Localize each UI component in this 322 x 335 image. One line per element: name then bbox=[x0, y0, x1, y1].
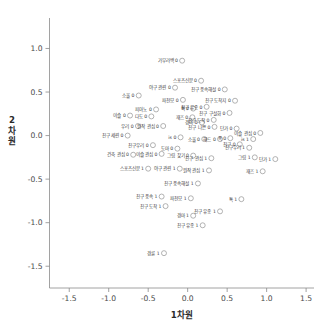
data-point bbox=[159, 194, 164, 199]
data-point bbox=[204, 104, 209, 109]
data-point-label: is 1 bbox=[241, 137, 249, 142]
data-point bbox=[146, 166, 151, 171]
data-point-label: 다도 0 bbox=[135, 113, 147, 120]
data-point-label: 야구 관련 0 bbox=[149, 84, 171, 91]
data-point bbox=[222, 87, 227, 92]
y-tick-label: -1.5 bbox=[28, 262, 43, 271]
data-point bbox=[128, 113, 133, 118]
data-point-label: 소울 0 bbox=[122, 93, 134, 99]
data-point-label: 친구 세련 0 bbox=[102, 132, 124, 139]
data-point-label: 친구 구설화 0 bbox=[199, 110, 225, 117]
data-point-label: 친구 나쁜 0 bbox=[188, 124, 210, 131]
data-point-label: 피아노 0 bbox=[135, 106, 151, 113]
data-point-label: 이슬 0 bbox=[113, 112, 125, 119]
data-point bbox=[252, 155, 257, 160]
data-point bbox=[258, 130, 263, 135]
data-point-label: 친구 풍속해설 0 bbox=[191, 86, 221, 93]
data-point-label: 단가 0 bbox=[220, 125, 232, 132]
data-point-label: 친구 도착지 0 bbox=[205, 97, 231, 104]
data-point bbox=[136, 93, 141, 98]
data-point bbox=[159, 151, 164, 156]
data-point-label: 파천모 0 bbox=[162, 97, 178, 104]
data-point bbox=[212, 124, 217, 129]
data-point-label: 단가 1 bbox=[259, 156, 271, 163]
x-tick-label: -1.0 bbox=[101, 294, 116, 303]
data-point bbox=[178, 135, 183, 140]
data-point bbox=[260, 169, 265, 174]
point-labels-group: 가부라백 0스포츠신문 0야구 관련 0친구 풍속해설 0소울 0파천모 0친구… bbox=[102, 57, 272, 255]
data-point bbox=[175, 146, 180, 151]
data-point bbox=[150, 143, 155, 148]
x-tick-label: 0.5 bbox=[221, 294, 233, 303]
data-point-label: 톡 0 bbox=[181, 106, 189, 112]
data-point bbox=[209, 156, 214, 161]
y-axis-title-char: 2 bbox=[9, 115, 15, 125]
data-point bbox=[125, 133, 130, 138]
data-point-label: 야구 관련 1 bbox=[154, 165, 176, 172]
data-point-label: 건축 관심 0 bbox=[107, 151, 129, 158]
data-point bbox=[163, 204, 168, 209]
data-point-label: 친구 도착 1 bbox=[140, 203, 162, 210]
y-axis-title-char: 차 bbox=[8, 125, 16, 136]
data-point-label: 친구 유종 1 bbox=[194, 208, 216, 215]
data-point bbox=[273, 157, 278, 162]
data-point bbox=[161, 124, 166, 129]
data-point-label: 도마 0 bbox=[161, 145, 173, 152]
data-point-label: 그림 1 bbox=[238, 154, 250, 160]
data-point bbox=[180, 58, 185, 63]
x-tick-label: 1.5 bbox=[300, 294, 312, 303]
data-point-label: 경륜 1 bbox=[147, 250, 159, 256]
data-point-label: 친구우리 0 bbox=[128, 142, 148, 149]
data-point-label: 친구 풍속 1 bbox=[136, 193, 158, 200]
y-tick-label: 0.0 bbox=[30, 131, 42, 140]
y-tick-label: -1.0 bbox=[28, 218, 43, 227]
data-point-label: 재즈 1 bbox=[246, 168, 258, 175]
data-point bbox=[199, 78, 204, 83]
data-point-label: 친구우리 1 bbox=[225, 144, 245, 151]
data-point-label: 원작 관심 1 bbox=[183, 167, 205, 174]
data-point bbox=[200, 223, 205, 228]
data-point bbox=[218, 209, 223, 214]
x-tick-label: 0.0 bbox=[182, 294, 194, 303]
plot-canvas: -1.5-1.0-0.50.00.51.01.51.00.50.0-0.5-1.… bbox=[0, 0, 322, 335]
data-point-label: 가부라백 0 bbox=[158, 57, 178, 64]
data-point bbox=[180, 97, 185, 102]
data-point-label: 친구 관심 1 bbox=[185, 155, 207, 162]
y-axis-title-char: 원 bbox=[8, 135, 16, 146]
data-point-label: 톡 1 bbox=[229, 197, 237, 203]
data-point-label: 소울 0 bbox=[188, 137, 200, 143]
data-point-label: 친구 풍속해설 1 bbox=[164, 180, 194, 187]
data-point bbox=[161, 251, 166, 256]
data-point-label: 파천모 1 bbox=[170, 195, 186, 202]
y-tick-label: -0.5 bbox=[28, 175, 43, 184]
data-point-label: 이슬 관심 0 bbox=[136, 151, 158, 158]
data-point bbox=[247, 145, 252, 150]
data-point bbox=[239, 197, 244, 202]
data-point bbox=[188, 196, 193, 201]
scatter-plot-figure: -1.5-1.0-0.50.00.51.01.51.00.50.0-0.5-1.… bbox=[0, 0, 322, 335]
data-point bbox=[233, 98, 238, 103]
data-point bbox=[251, 137, 256, 142]
data-point-label: is 0 bbox=[168, 135, 176, 140]
data-point-label: 원작 관심 0 bbox=[137, 123, 159, 130]
data-point-label: 우리 0 bbox=[121, 123, 133, 130]
data-point-label: 스포츠신문 1 bbox=[120, 165, 144, 171]
data-point bbox=[228, 136, 233, 141]
data-point-label: 친구 유종 1 bbox=[177, 222, 199, 229]
data-point-label: 해드 0 bbox=[203, 136, 215, 143]
data-point bbox=[177, 166, 182, 171]
data-point bbox=[154, 107, 159, 112]
data-point bbox=[211, 117, 216, 122]
x-axis-title: 1차원 bbox=[171, 309, 193, 320]
x-tick-label: -1.5 bbox=[62, 294, 77, 303]
data-point bbox=[206, 168, 211, 173]
x-tick-label: -0.5 bbox=[141, 294, 156, 303]
data-point bbox=[173, 85, 178, 90]
y-tick-label: 1.0 bbox=[30, 44, 42, 53]
y-tick-label: 0.5 bbox=[30, 88, 42, 97]
data-point bbox=[227, 110, 232, 115]
data-point-label: 스포츠신문 0 bbox=[173, 77, 197, 83]
data-point bbox=[149, 114, 154, 119]
data-point-label: 이슬 관심 0 bbox=[234, 130, 256, 137]
x-tick-label: 1.0 bbox=[261, 294, 273, 303]
